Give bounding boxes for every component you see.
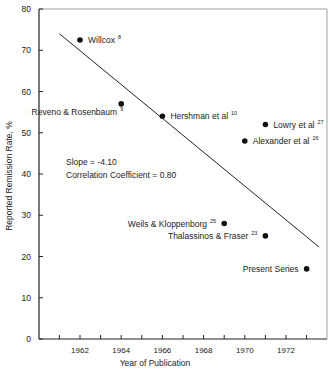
point-label: Lowry et al27 — [273, 119, 323, 130]
y-tick-label: 40 — [22, 169, 32, 179]
point-label: Hershman et al10 — [170, 110, 237, 121]
y-axis: 01020304050607080 — [22, 4, 43, 344]
point-marker-icon — [77, 37, 83, 43]
point-marker-icon — [263, 233, 269, 239]
x-axis: 196219641966196819701972 — [59, 335, 306, 355]
point-label: Alexander et al26 — [253, 135, 319, 146]
y-tick-label: 20 — [22, 252, 32, 262]
scatter-chart: 01020304050607080 1962196419661968197019… — [0, 0, 328, 372]
y-tick-label: 10 — [22, 293, 32, 303]
x-tick-label: 1964 — [112, 346, 130, 355]
y-tick-label: 80 — [22, 4, 32, 14]
x-tick-label: 1962 — [71, 346, 89, 355]
data-point: Present Series — [243, 264, 310, 274]
point-label: Willcox8 — [88, 34, 121, 45]
point-label: Thalassinos & Fraser23 — [168, 230, 257, 241]
y-tick-label: 50 — [22, 128, 32, 138]
point-label: Weils & Kloppenborg25 — [128, 218, 216, 229]
x-tick-label: 1970 — [236, 346, 254, 355]
x-tick-label: 1972 — [277, 346, 295, 355]
y-axis-label: Reported Remission Rate, % — [4, 121, 14, 231]
x-tick-label: 1968 — [195, 346, 213, 355]
y-tick-label: 30 — [22, 210, 32, 220]
x-tick-label: 1966 — [154, 346, 172, 355]
data-point: Reveno & Rosenbaum9 — [32, 101, 124, 117]
y-tick-label: 70 — [22, 45, 32, 55]
point-marker-icon — [304, 266, 310, 272]
data-points: Willcox8Reveno & Rosenbaum9Hershman et a… — [32, 34, 324, 274]
point-label: Reveno & Rosenbaum9 — [32, 106, 124, 117]
plot-area: 01020304050607080 1962196419661968197019… — [0, 0, 328, 372]
point-marker-icon — [160, 113, 166, 119]
x-axis-label: Year of Publication — [120, 358, 191, 368]
data-point: Hershman et al10 — [160, 110, 238, 121]
y-tick-label: 0 — [26, 334, 31, 344]
point-label: Present Series — [243, 264, 299, 274]
y-tick-label: 60 — [22, 87, 32, 97]
point-marker-icon — [221, 221, 227, 227]
slope-annotation: Slope = -4.10 — [66, 157, 117, 167]
data-point: Thalassinos & Fraser23 — [168, 230, 268, 241]
annotations: Slope = -4.10Correlation Coefficient = 0… — [66, 157, 176, 180]
data-point: Weils & Kloppenborg25 — [128, 218, 227, 229]
point-marker-icon — [242, 138, 248, 144]
data-point: Lowry et al27 — [263, 119, 324, 130]
data-point: Alexander et al26 — [242, 135, 319, 146]
correlation-annotation: Correlation Coefficient = 0.80 — [66, 170, 176, 180]
point-marker-icon — [263, 122, 269, 128]
data-point: Willcox8 — [77, 34, 121, 45]
